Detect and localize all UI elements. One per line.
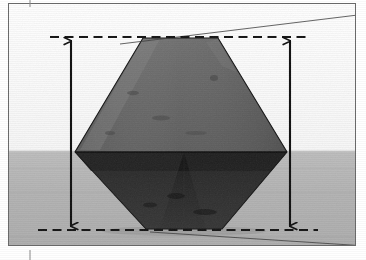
crystal-measurement-figure [0,0,366,260]
figure-container [0,0,366,260]
scan-grain [9,4,355,245]
photo-interior [9,4,366,246]
